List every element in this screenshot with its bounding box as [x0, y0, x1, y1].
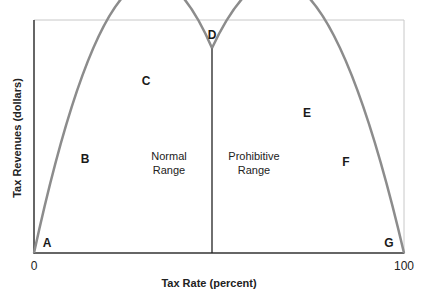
point-label-c: C: [142, 74, 151, 88]
x-axis-title: Tax Rate (percent): [161, 277, 256, 289]
laffer-curve-chart: A B C D E F G Normal Range Prohibitive R…: [0, 0, 426, 299]
normal-range-line2: Range: [153, 164, 185, 176]
point-label-f: F: [342, 155, 349, 169]
point-label-a: A: [43, 236, 52, 250]
y-axis-title: Tax Revenues (dollars): [11, 78, 23, 198]
x-tick-100: 100: [394, 259, 414, 273]
normal-range-line1: Normal: [151, 150, 186, 162]
point-label-b: B: [81, 152, 90, 166]
point-label-d: D: [208, 28, 217, 42]
point-label-g: G: [384, 236, 393, 250]
point-label-e: E: [303, 106, 311, 120]
prohibitive-range-line1: Prohibitive: [228, 150, 279, 162]
x-tick-0: 0: [31, 259, 38, 273]
prohibitive-range-line2: Range: [238, 164, 270, 176]
laffer-curve: [34, 0, 404, 253]
